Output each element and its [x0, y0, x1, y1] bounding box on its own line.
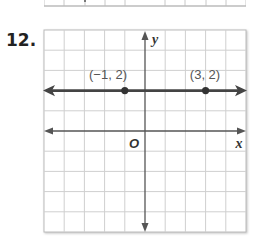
coordinate-graph: (−1, 2) (3, 2) O x y	[0, 0, 262, 240]
point-3-2	[202, 87, 209, 94]
point-label-neg1-2: (−1, 2)	[89, 67, 127, 82]
point-label-3-2: (3, 2)	[190, 67, 220, 82]
origin-label: O	[129, 136, 139, 151]
point-neg1-2	[121, 87, 128, 94]
x-axis-label: x	[235, 136, 243, 151]
y-axis-label: y	[150, 32, 159, 47]
